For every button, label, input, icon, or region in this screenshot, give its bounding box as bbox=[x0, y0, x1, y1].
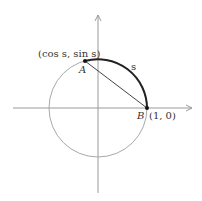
point-b-label: B bbox=[136, 110, 144, 121]
point-a-label: A bbox=[78, 64, 86, 75]
unit-circle-diagram: (cos s, sin s) A s B (1, 0) bbox=[0, 0, 202, 201]
point-a-coords-label: (cos s, sin s) bbox=[38, 48, 100, 59]
point-a bbox=[83, 59, 87, 63]
diagram-canvas: (cos s, sin s) A s B (1, 0) bbox=[0, 0, 202, 201]
point-b-coords-label: (1, 0) bbox=[149, 110, 176, 121]
chord-ab bbox=[85, 61, 147, 108]
arc-label: s bbox=[131, 61, 136, 72]
